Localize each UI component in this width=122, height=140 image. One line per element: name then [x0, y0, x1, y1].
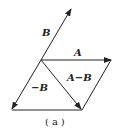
parallelogram-right-edge	[82, 60, 111, 110]
label-neg-b: −B	[31, 82, 48, 93]
label-b: B	[42, 27, 50, 38]
label-a-minus-b: A−B	[67, 72, 92, 83]
figure-caption: (a)	[45, 116, 68, 127]
label-a: A	[74, 47, 82, 58]
